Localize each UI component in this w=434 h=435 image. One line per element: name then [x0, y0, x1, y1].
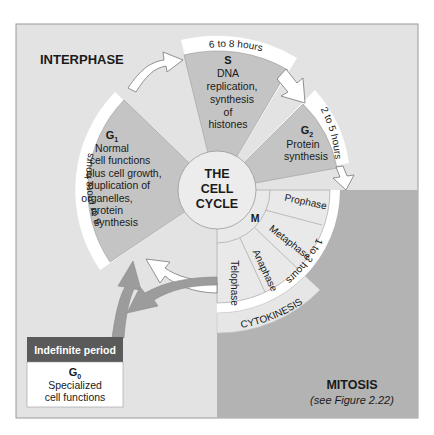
stage-telophase: Telophase [229, 260, 240, 306]
svg-text:of: of [224, 106, 233, 118]
svg-text:duplication of: duplication of [88, 179, 150, 191]
svg-text:replication,: replication, [207, 80, 258, 92]
svg-text:cell functions: cell functions [90, 154, 151, 166]
svg-text:histones: histones [208, 118, 247, 130]
m-label: M [251, 212, 260, 224]
center-title-3: CYCLE [196, 197, 238, 211]
g0-header-label: Indefinite period [34, 344, 116, 356]
mitosis-label: MITOSIS [326, 378, 377, 392]
svg-text:Normal: Normal [95, 142, 129, 154]
g0-line-2: cell functions [45, 391, 106, 403]
center-title-1: THE [205, 167, 230, 181]
g0-line-1: Specialized [48, 379, 102, 391]
mitosis-subtitle: (see Figure 2.22) [310, 394, 394, 406]
svg-text:DNA: DNA [217, 67, 239, 79]
svg-text:synthesis: synthesis [284, 150, 328, 162]
svg-text:synthesis: synthesis [210, 93, 254, 105]
center-title-2: CELL [201, 182, 234, 196]
svg-text:Protein: Protein [286, 138, 319, 150]
svg-text:plus cell growth,: plus cell growth, [86, 167, 161, 179]
cell-cycle-diagram: INTERPHASE THE CELL CYCLE G1 Normal cell… [0, 0, 434, 435]
interphase-label: INTERPHASE [40, 52, 124, 67]
svg-text:S: S [224, 54, 231, 66]
